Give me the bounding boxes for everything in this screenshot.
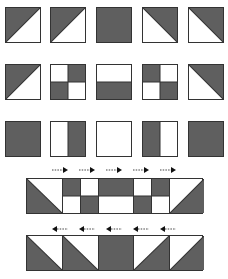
tile-tri-dark-top-left <box>5 64 41 100</box>
strip-cell-dark-top <box>151 179 169 213</box>
arrow-right-icon <box>52 167 68 173</box>
arrow-left-icon <box>52 226 68 232</box>
strip-cell-tri-dark-bottom-left <box>27 179 62 213</box>
tile-half-dark-left <box>142 121 178 157</box>
tile-solid-light <box>96 121 132 157</box>
strip-cell-tri-dark-bottom-right <box>169 179 204 213</box>
arrow-left-icon <box>160 226 176 232</box>
tile-quad-tl-br-dark <box>142 64 178 100</box>
tile-tri-dark-top-left <box>5 7 41 43</box>
arrow-left-icon <box>106 226 122 232</box>
tile-tri-dark-top-right <box>188 7 224 43</box>
strip-cell-tri-dark-bottom-right <box>169 236 204 270</box>
strip-cell-solid-dark <box>98 236 133 270</box>
tile-tri-dark-top-right <box>188 64 224 100</box>
tile-solid-dark <box>5 121 41 157</box>
tile-tri-dark-top-left <box>50 7 86 43</box>
strip-cell-dark-top <box>98 179 133 213</box>
arrow-left-icon <box>133 226 149 232</box>
arrow-right-icon <box>106 167 122 173</box>
tile-quad-tr-bl-dark <box>50 64 86 100</box>
strip-cell-tri-dark-bottom-right <box>133 236 169 270</box>
merged-strip-bottom <box>26 235 203 271</box>
tile-solid-dark <box>188 121 224 157</box>
tile-solid-dark <box>96 7 132 43</box>
arrow-left-icon <box>79 226 95 232</box>
tile-tri-dark-top-right <box>142 7 178 43</box>
strip-cell-dark-bottom <box>133 179 151 213</box>
strip-cell-dark-bottom <box>80 179 98 213</box>
strip-cell-tri-dark-bottom-left <box>62 236 98 270</box>
strip-cell-tri-dark-bottom-left <box>27 236 62 270</box>
arrow-right-icon <box>79 167 95 173</box>
tile-half-dark-right <box>50 121 86 157</box>
arrow-right-icon <box>160 167 176 173</box>
merged-strip-top <box>26 178 203 214</box>
tile-half-dark-bottom <box>96 64 132 100</box>
arrow-right-icon <box>133 167 149 173</box>
strip-cell-dark-top <box>62 179 80 213</box>
